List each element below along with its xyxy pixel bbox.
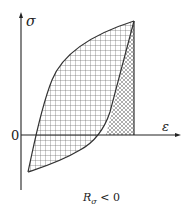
hysteresis-diagram <box>0 0 188 210</box>
y-axis-label: σ <box>26 14 36 28</box>
caption-relation: < 0 <box>97 191 120 204</box>
x-axis-arrow-icon <box>175 133 181 137</box>
y-axis-arrow-icon <box>19 12 23 18</box>
x-axis-label: ε <box>162 120 169 133</box>
origin-label: 0 <box>11 129 19 142</box>
caption: Rσ < 0 <box>83 192 120 206</box>
